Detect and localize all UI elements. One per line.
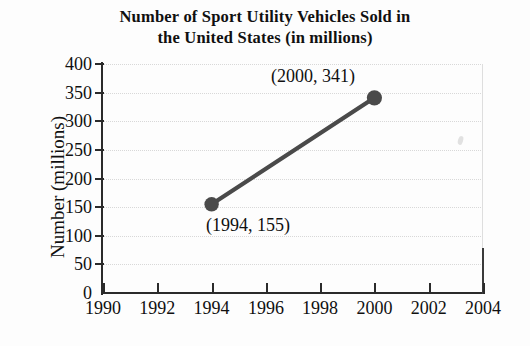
y-tick-250 [95,149,104,151]
chart-title: Number of Sport Utility Vehicles Sold in… [60,6,470,48]
y-tick-label-300-wrap: 300 [44,112,92,130]
y-tick-label-150-wrap: 150 [44,198,92,216]
y-tick-label-350-wrap: 350 [44,84,92,102]
chart-title-line-1: Number of Sport Utility Vehicles Sold in [60,6,470,27]
gridline-300 [103,121,483,122]
data-point-label-2000: (2000, 341) [271,66,355,86]
y-tick-label-400-wrap: 400 [44,55,92,73]
x-tick-label-1998: 1998 [292,298,348,318]
y-tick-label-250: 250 [48,141,92,159]
y-tick-label-150: 150 [48,198,92,216]
y-tick-label-50: 50 [48,255,92,273]
y-tick-150 [95,206,104,208]
y-tick-200 [95,178,104,180]
y-tick-label-200-wrap: 200 [44,170,92,188]
gridline-400 [103,64,483,65]
y-tick-label-200: 200 [48,170,92,188]
x-tick-label-2004: 2004 [455,298,511,318]
gridline-200 [103,179,483,180]
x-tick-2002 [429,283,431,294]
chart-figure: Number of Sport Utility Vehicles Sold in… [0,0,530,346]
gridline-150 [103,207,483,208]
chart-title-line-2: the United States (in millions) [60,27,470,48]
x-tick-1994 [212,283,214,294]
x-tick-label-1990: 1990 [75,298,131,318]
y-tick-50 [95,263,104,265]
x-tick-label-1992: 1992 [129,298,185,318]
x-tick-2000 [374,283,376,294]
y-tick-label-400: 400 [48,55,92,73]
y-tick-label-100: 100 [48,227,92,245]
x-tick-2004 [483,283,485,294]
y-tick-label-250-wrap: 250 [44,141,92,159]
x-tick-label-1996: 1996 [238,298,294,318]
x-tick-1992 [157,283,159,294]
x-tick-label-1994: 1994 [184,298,240,318]
gridline-50 [103,264,483,265]
x-tick-label-2000: 2000 [346,298,402,318]
x-tick-1990 [103,283,105,294]
y-tick-350 [95,92,104,94]
gridline-100 [103,236,483,237]
x-tick-label-2002: 2002 [401,298,457,318]
y-tick-300 [95,120,104,122]
y-tick-label-100-wrap: 100 [44,227,92,245]
x-tick-1996 [266,283,268,294]
y-tick-label-300: 300 [48,112,92,130]
plot-area [103,64,483,293]
y-tick-label-50-wrap: 50 [44,255,92,273]
x-tick-1998 [320,283,322,294]
y-tick-label-350: 350 [48,84,92,102]
data-point-label-1994: (1994, 155) [206,215,290,235]
gridline-350 [103,93,483,94]
gridline-250 [103,150,483,151]
y-tick-400 [95,63,104,65]
y-tick-100 [95,235,104,237]
plot-right-edge-faint [482,64,483,250]
